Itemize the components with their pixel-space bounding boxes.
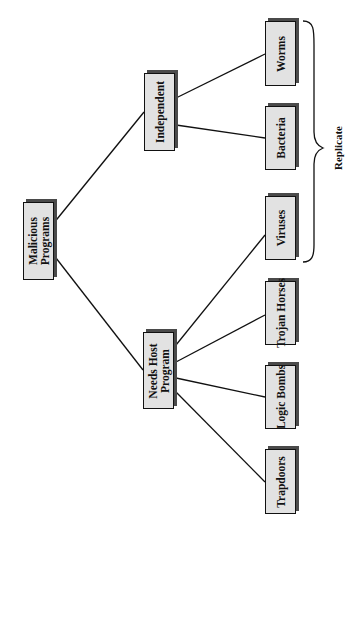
edge-independent-bacteria: [176, 125, 265, 138]
node-label: Trojan Horses: [275, 278, 287, 348]
replicate-brace: [303, 21, 323, 262]
node-logic-bombs: Logic Bombs: [265, 365, 296, 429]
edge-root-independent: [53, 112, 144, 224]
malicious-programs-diagram: Malicious Programs Independent Needs Hos…: [0, 0, 353, 629]
node-label: Logic Bombs: [275, 365, 287, 429]
node-label: Trapdoors: [275, 456, 287, 508]
node-label: Worms: [275, 36, 287, 72]
edge-root-needs-host: [56, 258, 143, 370]
node-worms: Worms: [265, 21, 296, 86]
edge-needs-host-trapdoors: [176, 392, 265, 482]
node-trojan-horses: Trojan Horses: [265, 281, 296, 345]
edge-needs-host-logic-bombs: [176, 378, 265, 397]
edge-needs-host-trojan-horses: [176, 315, 265, 362]
node-label: Malicious Programs: [27, 217, 51, 265]
node-needs-host-program: Needs Host Program: [143, 332, 174, 409]
replicate-label: Replicate: [332, 126, 344, 170]
node-bacteria: Bacteria: [265, 106, 296, 170]
node-label: Bacteria: [275, 117, 287, 159]
node-label: Needs Host Program: [147, 343, 171, 398]
edge-needs-host-viruses: [176, 235, 265, 345]
node-independent: Independent: [144, 73, 175, 151]
node-viruses: Viruses: [265, 196, 296, 260]
node-trapdoors: Trapdoors: [265, 449, 296, 514]
edge-independent-worms: [176, 54, 265, 98]
node-malicious-programs: Malicious Programs: [23, 202, 54, 280]
node-label: Independent: [154, 81, 166, 143]
node-label: Viruses: [275, 210, 287, 247]
